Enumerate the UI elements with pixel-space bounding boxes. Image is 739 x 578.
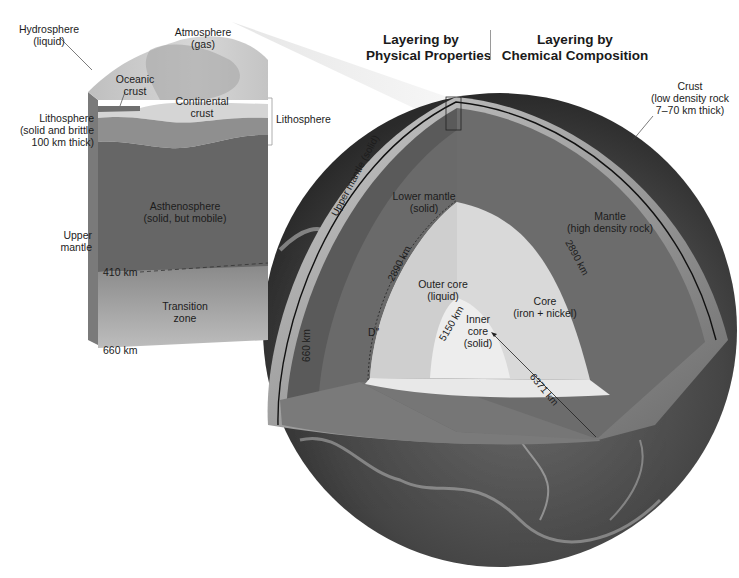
- label-outer-2: (liquid): [408, 290, 478, 302]
- label-continental-2: crust: [170, 107, 234, 119]
- label-atmosphere-2: (gas): [170, 38, 236, 50]
- label-inner-1: Inner: [458, 313, 498, 325]
- label-upper-1: Upper: [40, 229, 92, 241]
- header-physical-line1: Layering by: [366, 32, 476, 48]
- lithosphere-bracket: [268, 98, 272, 145]
- label-d-double-prime: D": [368, 326, 379, 338]
- label-depth-660-block: 660 km: [103, 344, 137, 356]
- label-inner-core: Inner core (solid): [458, 313, 498, 349]
- label-lower-2: (solid): [384, 202, 464, 214]
- header-chemical: Layering by Chemical Composition: [500, 32, 650, 64]
- label-astheno-2: (solid, but mobile): [140, 212, 230, 224]
- label-lower-1: Lower mantle: [384, 190, 464, 202]
- label-continental-1: Continental: [170, 95, 234, 107]
- label-core-2: (iron + nickel): [505, 307, 585, 319]
- label-outer-1: Outer core: [408, 278, 478, 290]
- label-depth-660-globe: 660 km: [301, 329, 312, 362]
- label-hydrosphere: Hydrosphere (liquid): [14, 23, 84, 47]
- label-litho-1: Lithosphere: [0, 112, 94, 124]
- label-transition-2: zone: [152, 312, 218, 324]
- label-upper-mantle: Upper mantle: [40, 229, 92, 253]
- label-outer-core: Outer core (liquid): [408, 278, 478, 302]
- globe: [263, 93, 737, 567]
- label-core-1: Core: [505, 295, 585, 307]
- label-hydrosphere-2: (liquid): [14, 35, 84, 47]
- label-depth-410: 410 km: [103, 266, 137, 278]
- label-lithosphere-bracket: Lithosphere: [276, 113, 331, 125]
- header-chemical-line1: Layering by: [500, 32, 650, 48]
- label-inner-3: (solid): [458, 337, 498, 349]
- label-lithosphere-left: Lithosphere (solid and brittle 100 km th…: [0, 112, 94, 148]
- label-astheno-1: Asthenosphere: [140, 200, 230, 212]
- label-mantle-1: Mantle: [555, 210, 665, 222]
- label-hydrosphere-1: Hydrosphere: [14, 23, 84, 35]
- label-litho-3: 100 km thick): [0, 136, 94, 148]
- label-litho-2: (solid and brittle: [0, 124, 94, 136]
- label-crust-2: (low density rock: [640, 92, 739, 104]
- label-mantle-2: (high density rock): [555, 222, 665, 234]
- header-physical-line2: Physical Properties: [366, 48, 476, 64]
- header-divider: [490, 30, 491, 60]
- label-crust-1: Crust: [640, 80, 739, 92]
- label-atmosphere: Atmosphere (gas): [170, 26, 236, 50]
- label-atmosphere-1: Atmosphere: [170, 26, 236, 38]
- label-mantle: Mantle (high density rock): [555, 210, 665, 234]
- label-asthenosphere: Asthenosphere (solid, but mobile): [140, 200, 230, 224]
- label-transition-zone: Transition zone: [152, 300, 218, 324]
- label-continental-crust: Continental crust: [170, 95, 234, 119]
- label-oceanic-2: crust: [110, 85, 160, 97]
- label-transition-1: Transition: [152, 300, 218, 312]
- label-lower-mantle: Lower mantle (solid): [384, 190, 464, 214]
- header-physical: Layering by Physical Properties: [366, 32, 476, 64]
- label-oceanic-1: Oceanic: [110, 73, 160, 85]
- label-crust: Crust (low density rock 7–70 km thick): [640, 80, 739, 116]
- label-upper-2: mantle: [40, 241, 92, 253]
- header-chemical-line2: Chemical Composition: [500, 48, 650, 64]
- label-inner-2: core: [458, 325, 498, 337]
- label-oceanic-crust: Oceanic crust: [110, 73, 160, 97]
- label-core: Core (iron + nickel): [505, 295, 585, 319]
- label-crust-3: 7–70 km thick): [640, 104, 739, 116]
